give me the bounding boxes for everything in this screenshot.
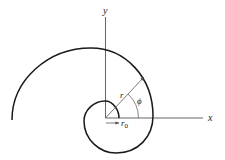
y-axis-label: y bbox=[102, 5, 108, 16]
radius-label: r bbox=[120, 90, 124, 100]
spiral-diagram: y x r ϕ r0 bbox=[0, 0, 225, 160]
angle-label: ϕ bbox=[137, 96, 142, 106]
x-axis-label: x bbox=[207, 112, 213, 123]
initial-radius-label: r0 bbox=[121, 118, 129, 130]
spiral-curve bbox=[12, 48, 153, 153]
